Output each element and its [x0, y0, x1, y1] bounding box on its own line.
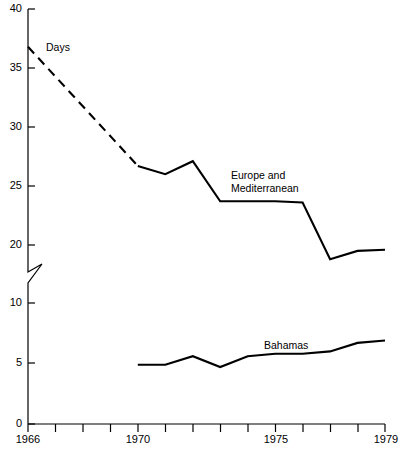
x-axis-label-1966: 1966: [8, 434, 48, 445]
x-axis-label-1975: 1975: [256, 434, 296, 445]
series-label-europe-line1: Europe and: [231, 169, 299, 182]
y-axis-label-10: 10: [2, 297, 22, 308]
y-axis-label-25: 25: [2, 180, 22, 191]
x-tick-marks: [28, 424, 385, 432]
x-axis-label-1970: 1970: [118, 434, 158, 445]
y-axis-label-35: 35: [2, 62, 22, 73]
series-label-bahamas: Bahamas: [264, 339, 308, 352]
units-annotation-days: Days: [46, 41, 70, 54]
y-axis-label-0: 0: [2, 418, 22, 429]
series-label-europe-and-mediterranean: Europe and Mediterranean: [231, 169, 299, 195]
series-layer: [28, 47, 385, 367]
y-axis-label-40: 40: [2, 3, 22, 14]
series-label-europe-line2: Mediterranean: [231, 182, 299, 195]
x-axis-label-1979: 1979: [366, 434, 406, 445]
series-line-bahamas-solid: [138, 341, 385, 368]
y-axis-label-5: 5: [2, 357, 22, 368]
y-axis-label-30: 30: [2, 121, 22, 132]
axis-break-icon: [28, 264, 42, 288]
series-line-europe-and-mediterranean-dashed: [28, 47, 138, 166]
chart-canvas: [0, 0, 414, 449]
line-chart: 40 35 30 25 20 10 5 0 1966 1970 1975 197…: [0, 0, 414, 449]
y-axis-label-20: 20: [2, 239, 22, 250]
